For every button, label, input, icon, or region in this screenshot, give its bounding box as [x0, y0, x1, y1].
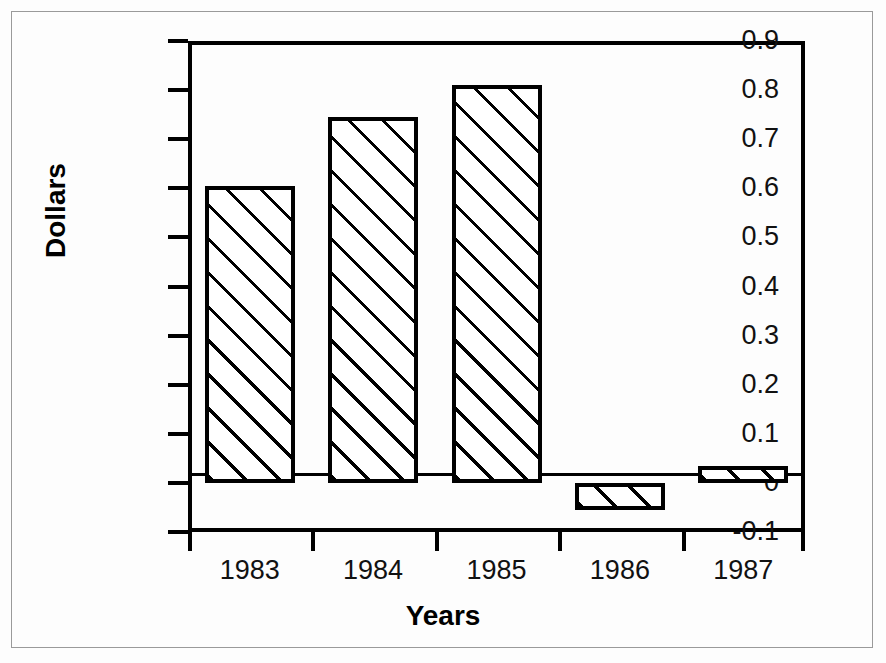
bar — [452, 85, 542, 483]
plot-border-top — [188, 41, 805, 45]
y-axis-tick-label: 0.1 — [741, 420, 779, 447]
x-axis-tick-label: 1985 — [435, 557, 558, 584]
chart-page: Dollars 0.90.80.70.60.50.40.30.20.10-0.1… — [0, 0, 886, 663]
y-axis-tick-label: 0.7 — [741, 125, 779, 152]
x-axis-tick — [311, 532, 315, 551]
bar — [205, 186, 295, 483]
y-axis-title: Dollars — [40, 218, 72, 258]
y-axis-tick-label: -0.1 — [732, 518, 779, 545]
bar — [698, 466, 788, 483]
y-axis-tick — [168, 383, 188, 387]
plot-area: 0.90.80.70.60.50.40.30.20.10-0.1 1983198… — [188, 41, 805, 532]
plot-border-bottom — [188, 528, 805, 532]
y-axis-tick — [168, 39, 188, 43]
y-axis-tick-label: 0.9 — [741, 27, 779, 54]
y-axis-tick-label: 0.3 — [741, 322, 779, 349]
x-axis-tick-label: 1987 — [682, 557, 805, 584]
bar — [575, 483, 665, 510]
y-axis-tick — [168, 334, 188, 338]
x-axis-tick-label: 1984 — [311, 557, 434, 584]
y-axis-tick-label: 0.5 — [741, 223, 779, 250]
y-axis-tick — [168, 432, 188, 436]
y-axis-tick — [168, 88, 188, 92]
y-axis-tick-label: 0.8 — [741, 76, 779, 103]
y-axis-tick — [168, 235, 188, 239]
y-axis-tick-label: 0.4 — [741, 273, 779, 300]
plot-border-right — [801, 41, 805, 532]
x-axis-title: Years — [0, 600, 886, 632]
y-axis-tick — [168, 530, 188, 534]
y-axis-tick — [168, 481, 188, 485]
y-axis-tick — [168, 137, 188, 141]
x-axis-tick-label: 1983 — [188, 557, 311, 584]
y-axis-tick — [168, 186, 188, 190]
x-axis-tick-label: 1986 — [558, 557, 681, 584]
x-axis-tick — [558, 532, 562, 551]
y-axis-tick-label: 0.2 — [741, 371, 779, 398]
x-axis-tick — [682, 532, 686, 551]
bar — [328, 117, 418, 483]
x-axis-tick — [188, 532, 192, 551]
y-axis-tick-label: 0.6 — [741, 174, 779, 201]
y-axis-tick — [168, 285, 188, 289]
x-axis-tick — [435, 532, 439, 551]
x-axis-tick — [801, 532, 805, 551]
plot-border-left — [188, 41, 192, 532]
